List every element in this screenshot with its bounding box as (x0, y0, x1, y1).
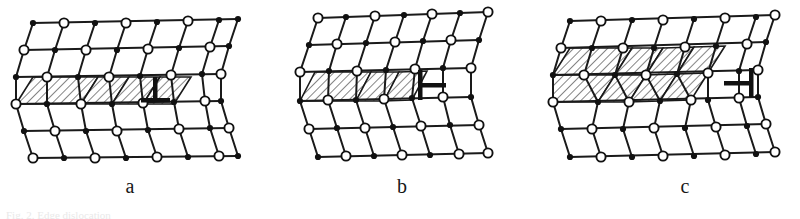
lattice-diagram-a (2, 0, 272, 176)
panel-b: b (270, 0, 540, 219)
panel-label-c: c (550, 176, 800, 196)
lattice-diagram-b (270, 0, 540, 176)
figure-root: a (0, 0, 800, 219)
slipped-region-b (300, 71, 427, 101)
lattice-diagram-c (528, 0, 800, 176)
panel-a: a (2, 0, 272, 219)
panel-label-b: b (267, 176, 537, 196)
figure-caption: Fig. 2. Edge dislocation (6, 209, 506, 219)
panel-label-a: a (0, 176, 265, 196)
panel-c: c (528, 0, 798, 219)
